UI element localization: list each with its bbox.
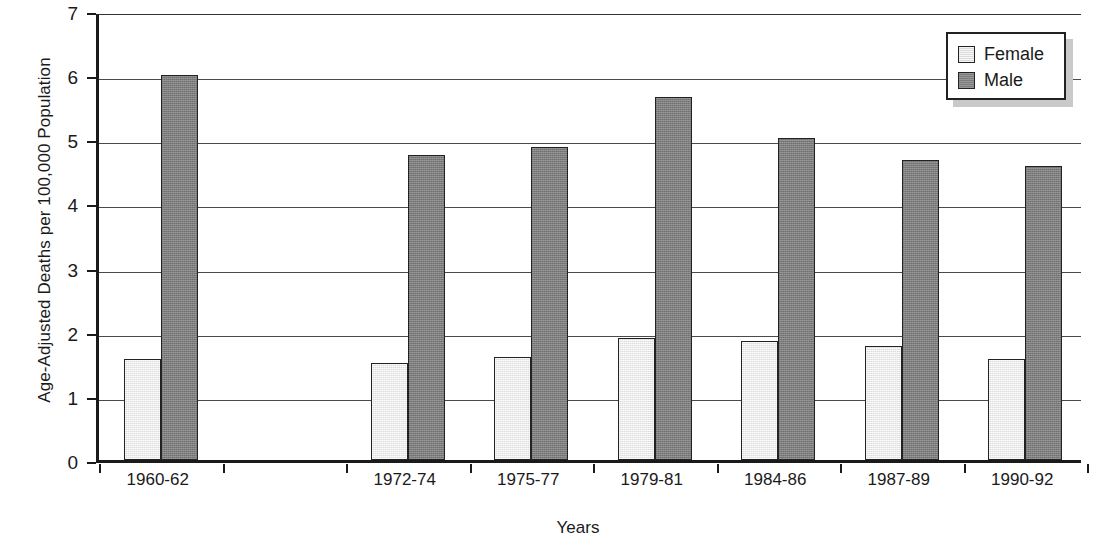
x-axis-title: Years: [96, 518, 1060, 538]
bar-male-1987-89[interactable]: [902, 160, 939, 460]
y-tick-mark: [87, 462, 96, 464]
bar-male-1990-92[interactable]: [1025, 166, 1062, 460]
x-tick-label: 1972-74: [340, 470, 470, 490]
y-tick-mark: [87, 141, 96, 143]
x-tick-label: 1979-81: [587, 470, 717, 490]
y-tick-label: 0: [38, 453, 78, 472]
y-tick-mark: [87, 205, 96, 207]
bar-female-1987-89[interactable]: [865, 346, 902, 460]
bar-female-1960-62[interactable]: [124, 359, 161, 460]
legend-item-female[interactable]: Female: [958, 41, 1064, 67]
x-tick-mark: [1087, 464, 1089, 473]
y-tick-label: 5: [38, 132, 78, 151]
legend-label-male: Male: [984, 71, 1023, 89]
x-tick-label: 1975-77: [463, 470, 593, 490]
bar-male-1979-81[interactable]: [655, 97, 692, 460]
bar-female-1972-74[interactable]: [371, 363, 408, 460]
y-tick-mark: [87, 398, 96, 400]
y-tick-label: 1: [38, 389, 78, 408]
legend-swatch-male-icon: [958, 72, 975, 89]
y-tick-label: 2: [38, 325, 78, 344]
legend: Female Male: [946, 32, 1066, 100]
y-tick-mark: [87, 77, 96, 79]
gridline: [99, 79, 1081, 80]
y-tick-label: 4: [38, 196, 78, 215]
y-tick-label: 6: [38, 68, 78, 87]
bar-female-1990-92[interactable]: [988, 359, 1025, 460]
bar-female-1984-86[interactable]: [741, 341, 778, 460]
bar-male-1984-86[interactable]: [778, 138, 815, 460]
x-tick-label: 1987-89: [834, 470, 964, 490]
bar-chart-figure: Age-Adjusted Deaths per 100,000 Populati…: [0, 0, 1101, 551]
y-tick-mark: [87, 270, 96, 272]
x-tick-label: 1960-62: [93, 470, 223, 490]
bar-female-1979-81[interactable]: [618, 338, 655, 460]
y-tick-mark: [87, 13, 96, 15]
y-tick-label: 3: [38, 261, 78, 280]
plot-area: [96, 14, 1081, 463]
legend-item-male[interactable]: Male: [958, 67, 1064, 93]
legend-swatch-female-icon: [958, 46, 975, 63]
x-tick-label: 1984-86: [710, 470, 840, 490]
bar-female-1975-77[interactable]: [494, 357, 531, 460]
y-tick-mark: [87, 334, 96, 336]
y-tick-label: 7: [38, 4, 78, 23]
x-tick-label: 1990-92: [957, 470, 1087, 490]
bar-male-1975-77[interactable]: [531, 147, 568, 460]
bar-male-1960-62[interactable]: [161, 75, 198, 460]
x-tick-mark: [223, 464, 225, 473]
bar-male-1972-74[interactable]: [408, 155, 445, 460]
gridline: [99, 143, 1081, 144]
legend-label-female: Female: [984, 45, 1044, 63]
